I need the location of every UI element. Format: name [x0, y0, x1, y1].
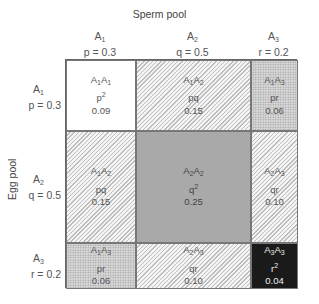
genotype-expression: q2 [189, 181, 198, 197]
genotype-frequency: 0.15 [92, 196, 111, 209]
genotype-cell: A3A3r20.04 [251, 243, 298, 289]
genotype-expression: pr [270, 89, 278, 105]
row-header-a2: A2 q = 0.5 [10, 173, 61, 202]
genotype-frequency: 0.10 [265, 196, 284, 209]
column-header-a1: A1 p = 0.3 [65, 30, 135, 59]
genotype-frequency: 0.04 [265, 275, 284, 288]
genotype-label: A2A3 [183, 244, 204, 260]
genotype-label: A1A2 [91, 165, 112, 181]
genotype-cell: A1A2pq0.15 [136, 60, 251, 131]
genotype-expression: p2 [96, 89, 105, 105]
genotype-cell: A2A3qr0.10 [251, 131, 298, 243]
column-header-a3: A3 r = 0.2 [250, 30, 297, 59]
row-header-a1: A1 p = 0.3 [10, 83, 61, 112]
genotype-frequency: 0.06 [265, 105, 284, 118]
genotype-expression: pq [188, 89, 199, 105]
genotype-frequency: 0.10 [184, 275, 203, 288]
row-header-a3: A3 r = 0.2 [10, 252, 61, 281]
genotype-expression: pr [97, 260, 105, 276]
genotype-expression: r2 [271, 260, 278, 276]
genotype-cell: A1A3pr0.06 [251, 60, 298, 131]
genotype-label: A3A3 [264, 244, 285, 260]
sperm-pool-title: Sperm pool [0, 8, 319, 20]
genotype-frequency: 0.09 [92, 105, 111, 118]
genotype-expression: pq [96, 181, 107, 197]
genotype-label: A1A1 [91, 74, 112, 90]
genotype-label: A2A2 [183, 165, 204, 181]
genotype-cell: A2A3qr0.10 [136, 243, 251, 289]
genotype-label: A1A2 [183, 74, 204, 90]
genotype-label: A1A3 [264, 74, 285, 90]
genotype-expression: qr [189, 260, 197, 276]
genotype-expression: qr [270, 181, 278, 197]
genotype-label: A1A3 [91, 244, 112, 260]
genotype-label: A2A3 [264, 165, 285, 181]
genotype-cell: A1A1p20.09 [66, 60, 136, 131]
genotype-frequency: 0.25 [184, 196, 203, 209]
genotype-frequency: 0.15 [184, 105, 203, 118]
punnett-grid: A1A1p20.09A1A2pq0.15A1A3pr0.06A1A2pq0.15… [65, 59, 297, 288]
genotype-cell: A1A3pr0.06 [66, 243, 136, 289]
genotype-cell: A1A2pq0.15 [66, 131, 136, 243]
genotype-cell: A2A2q20.25 [136, 131, 251, 243]
genotype-frequency: 0.06 [92, 275, 111, 288]
column-header-a2: A2 q = 0.5 [135, 30, 250, 59]
